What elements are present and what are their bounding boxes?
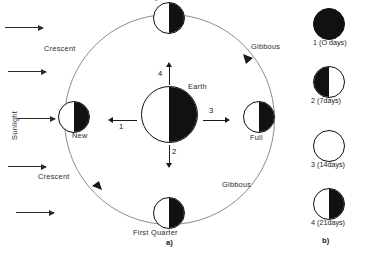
moon-first-quarter-dark-half <box>169 197 185 229</box>
earth-label: Earth <box>188 82 207 91</box>
moon-last-quarter <box>153 2 185 34</box>
phase-4-dark-half <box>329 188 345 220</box>
earth-dark-half <box>169 86 198 143</box>
moon-full-label: Full <box>250 133 263 142</box>
phase-3-caption: 3 (14days) <box>311 160 345 169</box>
moon-new <box>58 101 90 133</box>
phase-3-disc <box>313 130 345 162</box>
moon-new-dark-half <box>74 101 90 133</box>
phase-4-disc <box>313 188 345 220</box>
region-label-gibbous-upper: Gibbous <box>251 42 280 51</box>
sunlight-arrow-5 <box>16 212 54 213</box>
moon-first-quarter-label: First Quarter <box>133 228 178 237</box>
moon-last-quarter-label: Last Quarter <box>135 0 179 1</box>
moon-full-dark-half <box>259 101 275 133</box>
earth-disc <box>141 86 198 143</box>
region-label-gibbous-lower: Gibbous <box>222 180 251 189</box>
sunlight-arrow-4 <box>8 166 46 167</box>
phase-2-caption: 2 (7days) <box>311 96 341 105</box>
moon-full <box>243 101 275 133</box>
moon-first-quarter <box>153 197 185 229</box>
panel-a-label: a) <box>166 238 173 247</box>
sunlight-arrow-1 <box>5 27 43 28</box>
phase-2-disc <box>313 66 345 98</box>
panel-b-label: b) <box>322 236 329 245</box>
sunlight-label: Sunlight <box>10 111 19 140</box>
phase-1-caption: 1 (O days) <box>313 38 347 47</box>
rotation-vector-1-num: 1 <box>119 122 123 131</box>
phase-2-dark-half <box>313 66 329 98</box>
rotation-vector-4-num: 4 <box>158 69 162 78</box>
rotation-vector-3-num: 3 <box>209 106 213 115</box>
phase-1-disc <box>313 8 345 40</box>
sunlight-arrow-2 <box>8 71 46 72</box>
sunlight-arrow-3 <box>17 118 55 119</box>
phase-4-caption: 4 (21days) <box>311 218 345 227</box>
region-label-crescent-lower: Crescent <box>38 172 70 181</box>
moon-new-label: New <box>72 131 88 140</box>
moon-phase-diagram: Sunlight Earth 4 2 3 1 Last Quarter <box>0 0 381 253</box>
moon-last-quarter-dark-half <box>169 2 185 34</box>
rotation-vector-2-num: 2 <box>172 147 176 156</box>
region-label-crescent-upper: Crescent <box>44 44 76 53</box>
